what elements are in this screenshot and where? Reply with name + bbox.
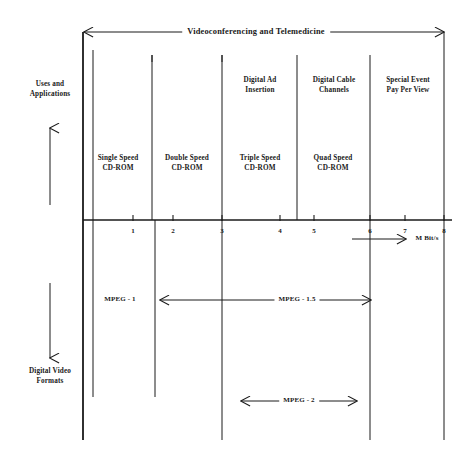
triple-speed-cdrom-label: Triple Speed CD-ROM	[240, 154, 281, 173]
digital-video-formats-label: Digital Video Formats	[29, 367, 71, 386]
digital-cable-channels-label: Digital Cable Channels	[313, 76, 355, 95]
axis-tick-label-4: 4	[278, 227, 282, 237]
axis-tick-label-8: 8	[442, 227, 446, 237]
diagram-page: 12345678M Bit/sVideoconferencing and Tel…	[0, 0, 471, 458]
videoconferencing-title: Videoconferencing and Telemedicine	[182, 27, 330, 37]
double-speed-cdrom-label: Double Speed CD-ROM	[165, 154, 209, 173]
axis-tick-label-1: 1	[131, 227, 135, 237]
axis-tick-label-6: 6	[368, 227, 372, 237]
mpeg-2-arrow-label: MPEG - 2	[279, 396, 319, 406]
uses-and-applications-label: Uses and Applications	[30, 80, 71, 99]
single-speed-cdrom-label: Single Speed CD-ROM	[98, 154, 139, 173]
units-label: M Bit/s	[415, 234, 438, 244]
axis-tick-label-2: 2	[171, 227, 175, 237]
quad-speed-cdrom-label: Quad Speed CD-ROM	[314, 154, 353, 173]
digital-ad-insertion-label: Digital Ad Insertion	[244, 76, 277, 95]
axis-group	[83, 215, 452, 221]
mpeg-1-label: MPEG - 1	[104, 295, 136, 305]
axis-tick-label-7: 7	[403, 227, 407, 237]
special-event-pay-per-view-label: Special Event Pay Per View	[386, 76, 430, 95]
diagram-canvas	[0, 0, 471, 458]
axis-tick-label-5: 5	[312, 227, 316, 237]
axis-tick-label-3: 3	[220, 227, 224, 237]
mpeg-1-5-arrow-label: MPEG - 1.5	[274, 295, 319, 305]
